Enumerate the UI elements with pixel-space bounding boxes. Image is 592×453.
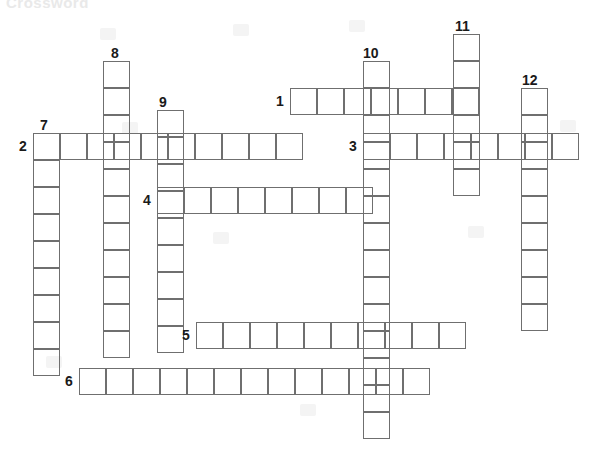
grid-cell[interactable] (33, 160, 60, 187)
grid-cell[interactable] (157, 272, 184, 299)
grid-cell[interactable] (103, 115, 130, 142)
grid-cell[interactable] (521, 142, 548, 169)
grid-cell[interactable] (157, 110, 184, 137)
grid-cell[interactable] (453, 61, 480, 88)
grid-cell[interactable] (79, 368, 106, 395)
grid-cell[interactable] (363, 88, 390, 115)
cell-letter (104, 197, 129, 222)
grid-cell[interactable] (290, 88, 317, 115)
grid-cell[interactable] (331, 322, 358, 349)
grid-cell[interactable] (521, 196, 548, 223)
grid-cell[interactable] (160, 368, 187, 395)
grid-cell[interactable] (33, 133, 60, 160)
grid-cell[interactable] (363, 142, 390, 169)
grid-cell[interactable] (453, 142, 480, 169)
grid-cell[interactable] (222, 133, 249, 160)
grid-cell[interactable] (211, 187, 238, 214)
grid-cell[interactable] (249, 133, 276, 160)
grid-cell[interactable] (184, 187, 211, 214)
grid-cell[interactable] (521, 88, 548, 115)
grid-cell[interactable] (157, 218, 184, 245)
grid-cell[interactable] (157, 137, 184, 164)
grid-cell[interactable] (103, 250, 130, 277)
cell-letter (269, 369, 294, 394)
grid-cell[interactable] (363, 277, 390, 304)
grid-cell[interactable] (33, 295, 60, 322)
grid-cell[interactable] (33, 241, 60, 268)
grid-cell[interactable] (214, 368, 241, 395)
grid-cell[interactable] (453, 88, 480, 115)
cell-letter (332, 323, 357, 348)
grid-cell[interactable] (521, 169, 548, 196)
grid-cell[interactable] (33, 214, 60, 241)
grid-cell[interactable] (521, 115, 548, 142)
grid-cell[interactable] (157, 245, 184, 272)
grid-cell[interactable] (60, 133, 87, 160)
grid-cell[interactable] (103, 196, 130, 223)
grid-cell[interactable] (363, 412, 390, 439)
grid-cell[interactable] (33, 187, 60, 214)
grid-cell[interactable] (363, 304, 390, 331)
grid-cell[interactable] (295, 368, 322, 395)
cell-letter (364, 359, 389, 384)
grid-cell[interactable] (439, 322, 466, 349)
grid-cell[interactable] (103, 331, 130, 358)
grid-cell[interactable] (103, 61, 130, 88)
grid-cell[interactable] (157, 191, 184, 218)
grid-cell[interactable] (521, 304, 548, 331)
grid-cell[interactable] (265, 187, 292, 214)
grid-cell[interactable] (453, 169, 480, 196)
grid-cell[interactable] (277, 322, 304, 349)
grid-cell[interactable] (157, 299, 184, 326)
grid-cell[interactable] (223, 322, 250, 349)
grid-cell[interactable] (268, 368, 295, 395)
grid-cell[interactable] (319, 187, 346, 214)
grid-cell[interactable] (276, 133, 303, 160)
cell-letter (158, 165, 183, 190)
grid-cell[interactable] (453, 34, 480, 61)
grid-cell[interactable] (363, 223, 390, 250)
grid-cell[interactable] (187, 368, 214, 395)
grid-cell[interactable] (157, 164, 184, 191)
grid-cell[interactable] (552, 133, 579, 160)
grid-cell[interactable] (157, 326, 184, 353)
grid-cell[interactable] (363, 61, 390, 88)
grid-cell[interactable] (412, 322, 439, 349)
grid-cell[interactable] (106, 368, 133, 395)
grid-cell[interactable] (195, 133, 222, 160)
grid-cell[interactable] (322, 368, 349, 395)
grid-cell[interactable] (292, 187, 319, 214)
grid-cell[interactable] (196, 322, 223, 349)
grid-cell[interactable] (103, 169, 130, 196)
grid-cell[interactable] (521, 250, 548, 277)
grid-cell[interactable] (363, 358, 390, 385)
grid-cell[interactable] (521, 277, 548, 304)
grid-cell[interactable] (398, 88, 425, 115)
grid-cell[interactable] (363, 331, 390, 358)
grid-cell[interactable] (33, 268, 60, 295)
grid-cell[interactable] (363, 250, 390, 277)
grid-cell[interactable] (103, 304, 130, 331)
grid-cell[interactable] (363, 385, 390, 412)
grid-cell[interactable] (390, 133, 417, 160)
grid-cell[interactable] (33, 349, 60, 376)
grid-cell[interactable] (103, 142, 130, 169)
grid-cell[interactable] (241, 368, 268, 395)
grid-cell[interactable] (33, 322, 60, 349)
grid-cell[interactable] (363, 115, 390, 142)
grid-cell[interactable] (403, 368, 430, 395)
grid-cell[interactable] (133, 368, 160, 395)
grid-cell[interactable] (363, 169, 390, 196)
grid-cell[interactable] (453, 115, 480, 142)
grid-cell[interactable] (304, 322, 331, 349)
grid-cell[interactable] (103, 277, 130, 304)
grid-cell[interactable] (238, 187, 265, 214)
grid-cell[interactable] (103, 223, 130, 250)
grid-cell[interactable] (103, 88, 130, 115)
grid-cell[interactable] (250, 322, 277, 349)
grid-cell[interactable] (317, 88, 344, 115)
grid-cell[interactable] (363, 196, 390, 223)
grid-cell[interactable] (417, 133, 444, 160)
grid-cell[interactable] (521, 223, 548, 250)
grid-cell[interactable] (425, 88, 452, 115)
